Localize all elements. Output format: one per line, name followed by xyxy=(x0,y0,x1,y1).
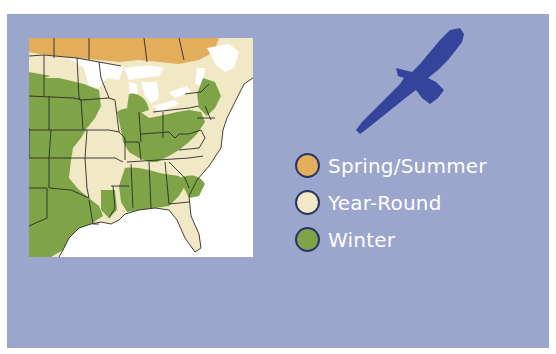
legend-label: Year-Round xyxy=(328,193,442,213)
us-map-graphic xyxy=(29,38,253,257)
legend-item-spring-summer: Spring/Summer xyxy=(295,147,487,184)
range-map xyxy=(29,38,253,257)
legend-item-winter: Winter xyxy=(295,221,487,258)
legend: Spring/Summer Year-Round Winter xyxy=(295,147,487,258)
legend-label: Spring/Summer xyxy=(328,156,487,176)
legend-item-year-round: Year-Round xyxy=(295,184,487,221)
range-map-panel: Spring/Summer Year-Round Winter xyxy=(7,14,549,348)
year-round-swatch-icon xyxy=(295,190,320,215)
bird-icon xyxy=(352,24,467,136)
winter-swatch-icon xyxy=(295,227,320,252)
spring-summer-swatch-icon xyxy=(295,153,320,178)
legend-label: Winter xyxy=(328,230,395,250)
